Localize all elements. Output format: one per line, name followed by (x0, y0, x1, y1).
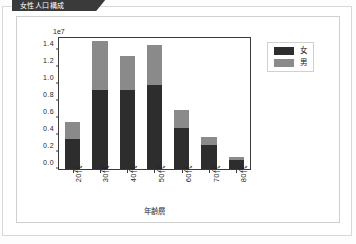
panel-header-tab: 女性人口構成 (12, 0, 110, 11)
bar-slot (141, 38, 168, 169)
bar-slot (223, 38, 250, 169)
panel-header-label: 女性人口構成 (20, 0, 64, 10)
x-label-slot: 30代 (86, 174, 114, 206)
legend-color-swatch (274, 59, 294, 67)
stacked-bar[interactable] (120, 56, 135, 169)
y-axis-tick-label: 1.2 (43, 56, 54, 63)
x-label-slot: 20代 (58, 174, 86, 206)
y-axis-tick-mark (56, 150, 59, 151)
stacked-bar[interactable] (147, 45, 162, 169)
chart-figure: 1e7 0.00.20.40.60.81.01.21.4 20代30代40代50… (17, 17, 341, 224)
y-axis-tick-mark (56, 116, 59, 117)
bar-segment-female[interactable] (65, 139, 80, 169)
stacked-bar[interactable] (92, 41, 107, 169)
stacked-bar[interactable] (201, 137, 216, 169)
x-axis-tick-label: 30代 (99, 166, 110, 182)
bar-segment-female[interactable] (174, 128, 189, 169)
x-axis-tick-label: 50代 (155, 166, 166, 182)
legend-item[interactable]: 男 (274, 59, 307, 67)
bar-slot (59, 38, 86, 169)
x-axis-tick-label: 20代 (72, 166, 83, 182)
x-label-slot: 80代 (223, 174, 251, 206)
x-axis-tick-label: 60代 (182, 166, 193, 182)
bar-segment-male[interactable] (147, 45, 162, 86)
bar-group (59, 38, 250, 169)
bar-segment-male[interactable] (174, 110, 189, 127)
chart-card-inner: 1e7 0.00.20.40.60.81.01.21.4 20代30代40代50… (16, 16, 340, 223)
bar-segment-female[interactable] (120, 90, 135, 169)
bar-segment-female[interactable] (92, 90, 107, 169)
bar-slot (86, 38, 113, 169)
plot-area: 0.00.20.40.60.81.01.21.4 (58, 37, 251, 170)
y-axis-exponent-label: 1e7 (53, 28, 65, 35)
y-axis-tick-label: 1.4 (43, 39, 54, 46)
y-axis-tick-mark (56, 99, 59, 100)
bar-slot (195, 38, 222, 169)
bar-segment-female[interactable] (147, 85, 162, 169)
x-label-slot: 60代 (168, 174, 196, 206)
x-axis-tick-label: 80代 (237, 166, 248, 182)
x-axis-tick-label: 70代 (210, 166, 221, 182)
bar-slot (114, 38, 141, 169)
y-axis-tick-mark (56, 133, 59, 134)
y-axis-tick-label: 0.8 (43, 90, 54, 97)
bar-segment-male[interactable] (65, 122, 80, 139)
chart-card-outer: 1e7 0.00.20.40.60.81.01.21.4 20代30代40代50… (2, 6, 352, 236)
y-axis-tick-label: 0.4 (43, 124, 54, 131)
stacked-bar[interactable] (65, 122, 80, 169)
bar-segment-male[interactable] (201, 137, 216, 145)
x-axis-tick-labels: 20代30代40代50代60代70代80代 (58, 174, 251, 206)
bar-segment-male[interactable] (120, 56, 135, 90)
legend-label: 女 (300, 47, 307, 55)
y-axis-tick-mark (56, 48, 59, 49)
y-axis-tick-mark (56, 65, 59, 66)
x-label-slot: 50代 (141, 174, 169, 206)
y-axis-tick-label: 0.6 (43, 107, 54, 114)
bar-slot (168, 38, 195, 169)
legend-label: 男 (300, 59, 307, 67)
x-axis-title: 年齢層 (58, 205, 251, 216)
chart-legend: 女男 (267, 42, 314, 72)
y-axis-tick-mark (56, 82, 59, 83)
x-label-slot: 40代 (113, 174, 141, 206)
x-axis-tick-label: 40代 (127, 166, 138, 182)
y-axis-tick-mark (56, 168, 59, 169)
x-label-slot: 70代 (196, 174, 224, 206)
legend-color-swatch (274, 47, 294, 55)
screenshot-root: 女性人口構成 1e7 0.00.20.40.60.81.01.21.4 20代3… (0, 0, 356, 244)
y-axis-tick-label: 0.2 (43, 141, 54, 148)
y-axis-tick-label: 0.0 (43, 159, 54, 166)
y-axis-tick-label: 1.0 (43, 73, 54, 80)
legend-item[interactable]: 女 (274, 47, 307, 55)
stacked-bar[interactable] (174, 110, 189, 169)
bar-segment-male[interactable] (92, 41, 107, 90)
